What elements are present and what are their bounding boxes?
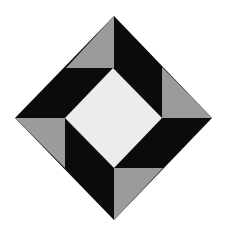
quilt-diamond-figure — [0, 0, 226, 230]
